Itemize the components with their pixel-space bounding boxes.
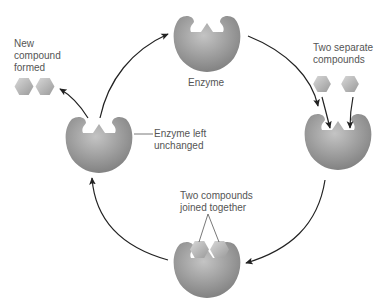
hexagon-product-1 [15,78,34,95]
arrow-left-to-top [100,34,168,118]
label-joined-line1: Two compounds [180,190,253,202]
label-enzyme-left-unchanged: Enzyme left unchanged [154,128,206,152]
label-two-compounds-joined: Two compounds joined together [180,190,253,214]
enzyme-top [174,16,241,72]
enzyme-left [66,117,133,173]
label-unchanged-line1: Enzyme left [154,128,206,140]
label-new-line3: formed [14,62,61,74]
label-new-line2: compound [14,50,61,62]
arrow-substrate-1 [322,97,330,128]
arrow-top-to-right [248,36,318,106]
arrow-bottom-to-left [92,178,168,260]
label-two-separate-compounds: Two separate compounds [313,42,373,66]
hexagon-product-2 [36,78,55,95]
label-two-separate-line1: Two separate [313,42,373,54]
pointer-joined-1 [199,214,208,242]
label-two-separate-line2: compounds [313,54,373,66]
hexagon-separate-1 [313,76,331,92]
arrow-product-release [60,89,88,118]
label-enzyme: Enzyme [188,77,224,89]
pointer-joined-2 [208,214,219,242]
enzyme-cycle-diagram: Enzyme Two separate compounds Two compou… [0,0,392,303]
arrow-substrate-2 [350,97,353,128]
arrow-right-to-bottom [246,180,325,263]
enzyme-right [305,114,372,170]
label-new-line1: New [14,38,61,50]
label-unchanged-line2: unchanged [154,140,206,152]
label-joined-line2: joined together [180,202,253,214]
label-new-compound-formed: New compound formed [14,38,61,74]
hexagon-separate-2 [341,76,359,92]
